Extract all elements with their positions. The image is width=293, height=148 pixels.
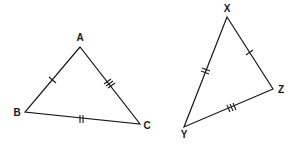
- triangle-abc-outline: [25, 47, 140, 124]
- side-yz-tick-marks: [227, 103, 236, 112]
- side-bc-tick-marks: [80, 115, 83, 123]
- vertex-label-z: Z: [278, 84, 284, 95]
- vertex-label-y: Y: [181, 129, 188, 140]
- triangle-abc: A B C: [13, 32, 150, 131]
- diagram-canvas: A B C X Y Z: [0, 0, 293, 148]
- triangle-xyz-outline: [184, 17, 273, 127]
- vertex-label-b: B: [13, 107, 20, 118]
- vertex-label-a: A: [76, 32, 83, 43]
- vertex-label-x: X: [224, 3, 231, 14]
- triangle-xyz: X Y Z: [181, 3, 284, 140]
- side-xz-tick-marks: [246, 50, 253, 55]
- vertex-label-c: C: [143, 120, 150, 131]
